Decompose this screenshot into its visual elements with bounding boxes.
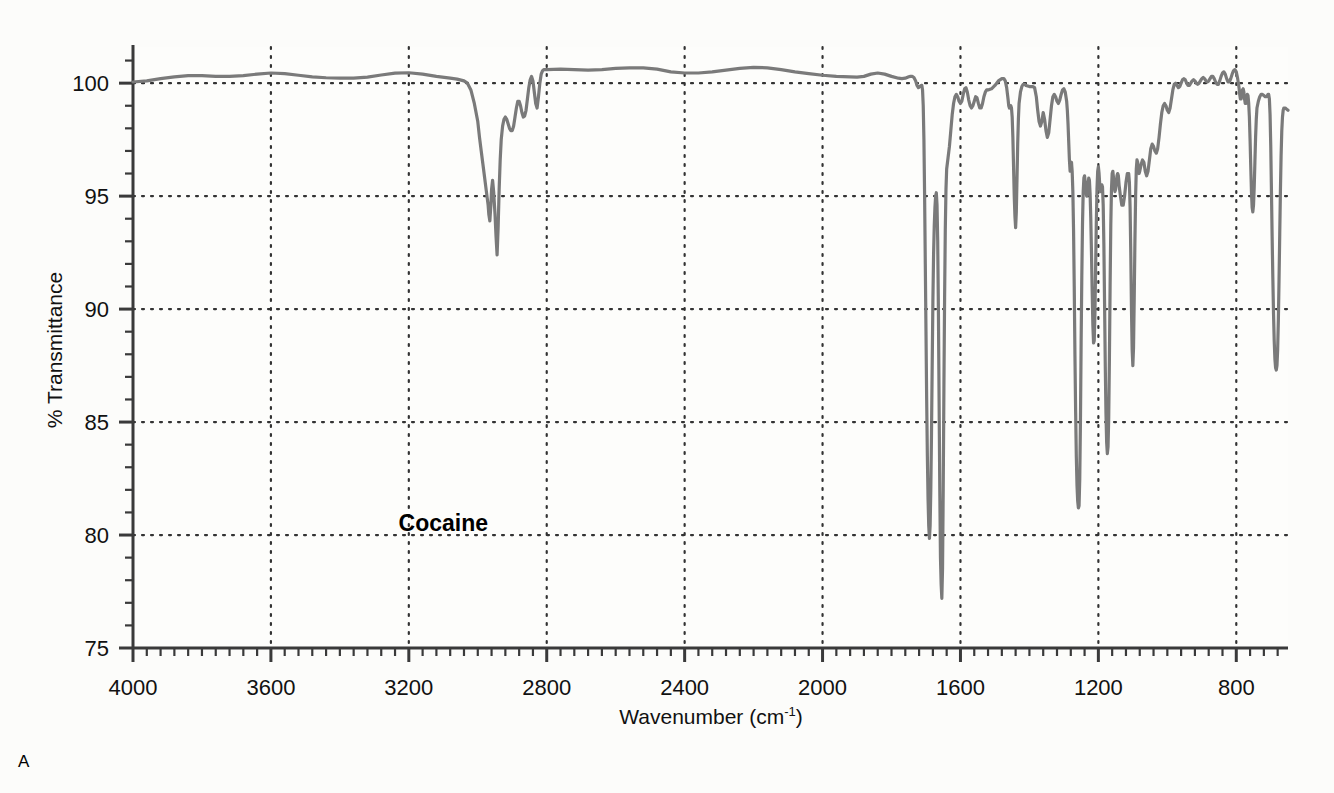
y-tick-label: 75	[85, 636, 109, 661]
x-tick-label: 2800	[522, 675, 571, 700]
y-tick-label: 80	[85, 523, 109, 548]
x-tick-label: 3600	[246, 675, 295, 700]
x-axis-title-superscript: -1	[784, 704, 796, 719]
x-axis-title-close: )	[796, 705, 803, 728]
x-tick-label: 1600	[936, 675, 985, 700]
y-axis-title: % Transmittance	[43, 272, 66, 428]
x-tick-label: 3200	[384, 675, 433, 700]
y-tick-label: 85	[85, 410, 109, 435]
x-axis-title-base: Wavenumber (cm	[619, 705, 784, 728]
grid-layer	[133, 47, 1288, 648]
x-tick-label: 800	[1218, 675, 1255, 700]
ir-spectrum-chart: 7580859095100400036003200280024002000160…	[0, 0, 1334, 793]
y-tick-label: 95	[85, 184, 109, 209]
x-tick-label: 2400	[660, 675, 709, 700]
x-tick-label: 1200	[1074, 675, 1123, 700]
x-axis-title: Wavenumber (cm-1)	[619, 704, 803, 728]
y-tick-label: 100	[72, 71, 109, 96]
panel-label-a: A	[18, 752, 29, 772]
x-tick-label: 2000	[798, 675, 847, 700]
y-tick-label: 90	[85, 297, 109, 322]
x-tick-label: 4000	[109, 675, 158, 700]
figure-panel: 7580859095100400036003200280024002000160…	[0, 0, 1334, 793]
series-annotation-cocaine: Cocaine	[399, 510, 488, 536]
